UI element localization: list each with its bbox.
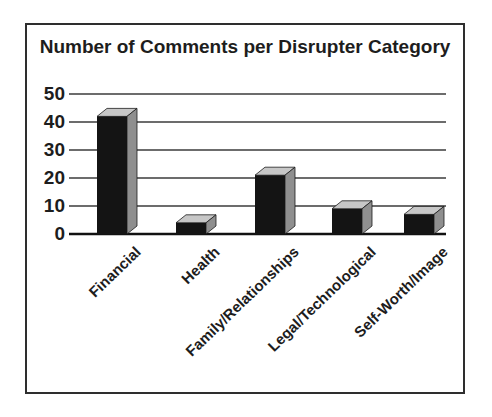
- chart-canvas: Number of Comments per Disrupter Categor…: [0, 0, 492, 417]
- bar-front-face-4: [404, 214, 434, 234]
- bar-front-face-3: [332, 209, 362, 234]
- bar-front-face-1: [176, 223, 206, 234]
- bar-side-face-0: [127, 108, 137, 234]
- bar-side-face-2: [285, 167, 295, 234]
- bar-front-face-2: [255, 175, 285, 234]
- bar-front-face-0: [97, 116, 127, 234]
- bar-chart-plot-area: [0, 0, 492, 417]
